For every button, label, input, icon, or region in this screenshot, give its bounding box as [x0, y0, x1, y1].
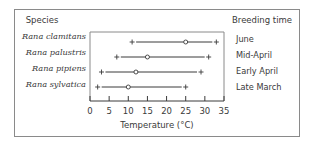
- optimum-circle-marker: [184, 40, 188, 44]
- x-tick-label: 35: [219, 106, 230, 116]
- x-tick-label: 10: [123, 106, 134, 116]
- species-range-row: [130, 40, 219, 45]
- optimum-circle-marker: [134, 70, 138, 74]
- x-tick-label: 30: [199, 106, 210, 116]
- x-tick-label: 25: [180, 106, 191, 116]
- optimum-circle-marker: [126, 85, 130, 89]
- x-tick-label: 20: [161, 106, 172, 116]
- x-tick-label: 5: [106, 106, 111, 116]
- species-range-row: [95, 85, 188, 90]
- optimum-circle-marker: [145, 55, 149, 59]
- x-tick-label: 15: [142, 106, 153, 116]
- species-range-row: [99, 70, 204, 75]
- plot-rows: [95, 40, 219, 90]
- x-axis-title: Temperature (°C): [120, 120, 193, 130]
- x-tick-label: 0: [87, 106, 92, 116]
- species-range-row: [114, 55, 211, 60]
